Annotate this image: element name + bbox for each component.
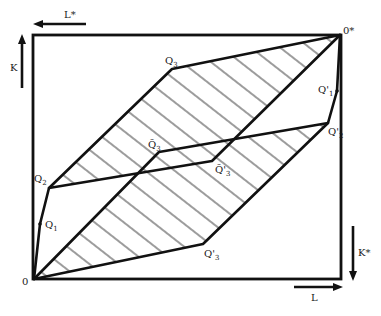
label-origin-foreign: 0* (343, 25, 354, 36)
label-l-star: L* (64, 9, 76, 20)
label-k: K (10, 62, 18, 73)
arrow-k-star (349, 226, 357, 281)
point-q1-prime (335, 89, 339, 93)
label-q1-prime: Q'1 (318, 84, 333, 98)
label-q1: Q1 (45, 219, 58, 233)
label-origin-home: 0 (22, 276, 28, 287)
label-q2: Q2 (34, 173, 47, 187)
label-q3-prime: Q'3 (204, 248, 219, 262)
label-k-star: K* (358, 247, 370, 258)
arrow-l (294, 283, 343, 291)
arrow-l-star (33, 20, 86, 28)
edgeworth-box-diagram: L* K K* L 0 0* Q1 Q2 Q3 Q'1 Q'2 Q'3 Q̃3 … (0, 0, 381, 316)
label-q3: Q3 (165, 55, 178, 69)
point-q1 (38, 222, 42, 226)
label-l: L (311, 292, 318, 303)
arrow-k (18, 34, 26, 88)
